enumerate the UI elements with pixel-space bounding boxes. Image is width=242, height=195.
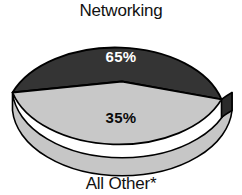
pie-chart-graphic (0, 0, 242, 195)
chart-footer-label: All Other* (0, 173, 242, 194)
pie-chart: Networking 65% 35% All Other* (0, 0, 242, 195)
slice-data-label-all-other: 35% (0, 109, 242, 126)
slice-data-label-networking: 65% (0, 48, 242, 65)
